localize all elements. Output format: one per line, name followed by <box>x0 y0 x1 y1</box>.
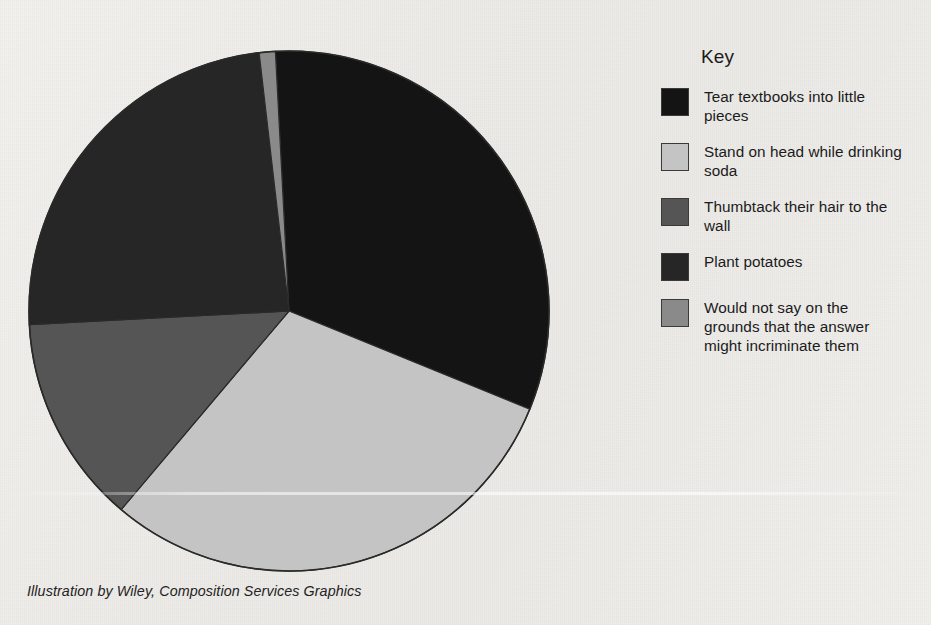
legend-item-label: Thumbtack their hair to the wall <box>704 197 904 235</box>
legend-item[interactable]: Plant potatoes <box>661 252 916 281</box>
pie-slice[interactable] <box>29 53 289 325</box>
legend-item[interactable]: Would not say on the grounds that the an… <box>661 298 916 355</box>
legend-title: Key <box>701 46 916 68</box>
pie-chart-figure: Key Tear textbooks into little piecesSta… <box>0 0 931 625</box>
legend-items-list: Tear textbooks into little piecesStand o… <box>661 87 916 355</box>
legend-item-label: Tear textbooks into little pieces <box>704 87 904 125</box>
pie-slices-group <box>29 51 549 571</box>
legend-color-swatch <box>661 198 689 226</box>
legend-color-swatch <box>661 88 689 116</box>
legend-item[interactable]: Stand on head while drinking soda <box>661 142 916 180</box>
chart-legend: Key Tear textbooks into little piecesSta… <box>661 46 916 372</box>
legend-item[interactable]: Tear textbooks into little pieces <box>661 87 916 125</box>
legend-color-swatch <box>661 299 689 327</box>
legend-item-label: Plant potatoes <box>704 252 803 271</box>
pie-chart <box>26 46 556 580</box>
legend-color-swatch <box>661 253 689 281</box>
legend-color-swatch <box>661 143 689 171</box>
legend-item-label: Stand on head while drinking soda <box>704 142 904 180</box>
legend-item[interactable]: Thumbtack their hair to the wall <box>661 197 916 235</box>
illustration-credit: Illustration by Wiley, Composition Servi… <box>27 583 362 599</box>
legend-item-label: Would not say on the grounds that the an… <box>704 298 904 355</box>
pie-chart-svg <box>26 46 556 580</box>
